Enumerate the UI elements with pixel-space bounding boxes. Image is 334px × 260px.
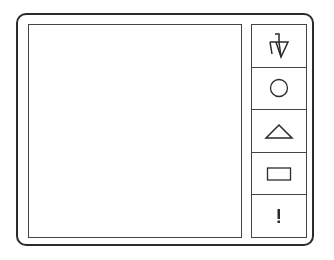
rectangle-tool-button[interactable] <box>252 153 306 196</box>
pen-icon <box>266 32 292 60</box>
triangle-tool-button[interactable] <box>252 110 306 153</box>
rectangle-icon <box>266 166 292 182</box>
alert-tool-button[interactable] <box>252 195 306 237</box>
circle-icon <box>268 77 290 99</box>
exclamation-icon <box>274 207 284 225</box>
circle-tool-button[interactable] <box>252 68 306 111</box>
pen-tool-button[interactable] <box>252 25 306 68</box>
tool-panel <box>251 24 307 238</box>
triangle-icon <box>264 122 294 140</box>
drawing-canvas[interactable] <box>28 24 242 238</box>
